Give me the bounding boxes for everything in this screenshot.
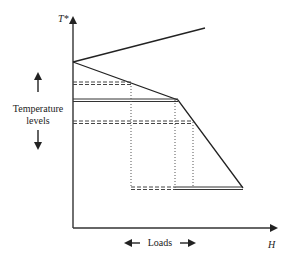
dashed-level-lines <box>73 82 193 190</box>
upper-curve <box>73 28 205 62</box>
loads-indicator: Loads <box>126 237 194 248</box>
double-level-lines <box>73 99 243 190</box>
y-axis-label: T* <box>58 13 69 24</box>
side-label-line2: levels <box>26 115 49 126</box>
composite-curves <box>73 28 243 188</box>
loads-label: Loads <box>148 237 173 248</box>
temperature-levels-indicator: Temperature levels <box>13 74 64 148</box>
lower-curve <box>73 62 243 188</box>
side-label-line1: Temperature <box>13 103 64 114</box>
x-axis-label: H <box>267 239 276 250</box>
temperature-load-diagram: Temperature levels T* H Loads <box>0 0 290 256</box>
